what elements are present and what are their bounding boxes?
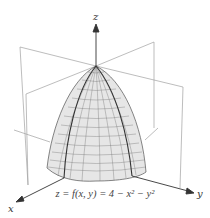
paraboloid-surface xyxy=(47,66,146,181)
x-axis-label: x xyxy=(8,203,14,214)
paraboloid-diagram: z x y xyxy=(0,0,210,218)
z-axis-arrow-icon xyxy=(93,24,99,32)
figure-caption: z = f(x, y) = 4 − x² − y² xyxy=(0,188,210,199)
z-axis-label: z xyxy=(92,11,99,22)
